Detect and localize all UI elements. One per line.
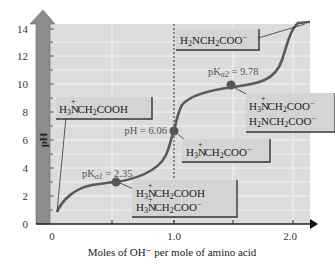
- pka2-point: [227, 81, 236, 90]
- y-tick-4: 4: [23, 162, 29, 174]
- y-tick-12: 12: [17, 50, 28, 62]
- y-tick-0: 0: [23, 218, 29, 230]
- species-box-pka1: H3N+CH2COOH H3N+CH2COO−: [132, 180, 237, 217]
- y-tick-2: 2: [23, 190, 29, 202]
- y-tick-6: 6: [23, 134, 29, 146]
- x-tick-2: 2.0: [283, 230, 297, 242]
- y-tick-8: 8: [23, 106, 29, 118]
- y-tick-10: 10: [17, 78, 29, 90]
- y-axis-label: pH: [37, 132, 49, 147]
- species-box-anion: H2NCH2COO−: [176, 29, 259, 50]
- x-tick-0: 0: [49, 230, 55, 242]
- titration-chart: 14 12 10 8 6 4 2 0 pH 0 1.0 2.0 Moles of…: [0, 0, 335, 268]
- species-box-cation: H3N+CH2COOH: [56, 97, 152, 119]
- pi-point: [170, 127, 179, 136]
- pi-label: pH = 6.06: [125, 125, 167, 136]
- x-axis-label: Moles of OH⁻ per mole of amino acid: [88, 246, 257, 258]
- species-box-zwitterion: H3N+CH2COO−: [182, 139, 270, 162]
- x-tick-1: 1.0: [167, 230, 181, 242]
- species-box-pka2: H3N+CH2COO− H2NCH2COO−: [246, 93, 335, 132]
- x-axis-arrow-icon: [310, 219, 318, 229]
- y-tick-14: 14: [17, 23, 29, 35]
